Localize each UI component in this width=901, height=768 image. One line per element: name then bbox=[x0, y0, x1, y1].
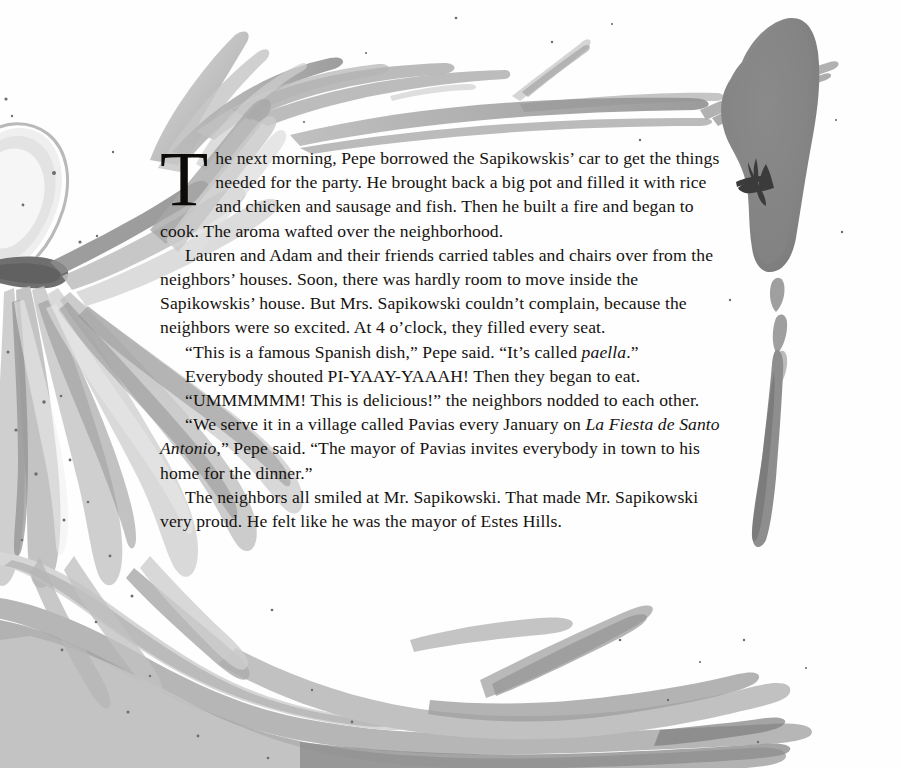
storybook-page: The next morning, Pepe borrowed the Sapi… bbox=[0, 0, 901, 768]
story-text-block: The next morning, Pepe borrowed the Sapi… bbox=[160, 146, 720, 533]
paragraph-3-seg-3: .” bbox=[626, 342, 638, 362]
right-margin-strokes bbox=[752, 278, 787, 547]
paragraph-1: The next morning, Pepe borrowed the Sapi… bbox=[160, 146, 720, 243]
paragraph-1-text: he next morning, Pepe borrowed the Sapik… bbox=[160, 148, 719, 241]
paragraph-6-seg-3: ,” Pepe said. “The mayor of Pavias invit… bbox=[160, 438, 700, 482]
paragraph-4: Everybody shouted PI-YAAY-YAAAH! Then th… bbox=[160, 364, 720, 388]
paragraph-5-text: “UMMMMMM! This is delicious!” the neighb… bbox=[185, 390, 699, 410]
paragraph-2-text: Lauren and Adam and their friends carrie… bbox=[160, 245, 713, 338]
right-dark-blob bbox=[721, 18, 819, 272]
bottom-strokes bbox=[0, 552, 812, 768]
paragraph-7-text: The neighbors all smiled at Mr. Sapikows… bbox=[160, 487, 698, 531]
paragraph-6: “We serve it in a village called Pavias … bbox=[160, 412, 720, 485]
star-accent bbox=[736, 158, 774, 206]
top-right-stroke bbox=[700, 61, 839, 126]
drop-cap-letter: T bbox=[160, 148, 208, 210]
paragraph-7: The neighbors all smiled at Mr. Sapikows… bbox=[160, 485, 720, 533]
paragraph-3: “This is a famous Spanish dish,” Pepe sa… bbox=[160, 340, 720, 364]
paragraph-4-text: Everybody shouted PI-YAAY-YAAAH! Then th… bbox=[185, 366, 640, 386]
paragraph-2: Lauren and Adam and their friends carrie… bbox=[160, 243, 720, 340]
paragraph-3-seg-1: “This is a famous Spanish dish,” Pepe sa… bbox=[185, 342, 582, 362]
paragraph-6-seg-1: “We serve it in a village called Pavias … bbox=[185, 414, 585, 434]
paragraph-3-italic-paella: paella bbox=[582, 342, 627, 362]
paragraph-5: “UMMMMMM! This is delicious!” the neighb… bbox=[160, 388, 720, 412]
